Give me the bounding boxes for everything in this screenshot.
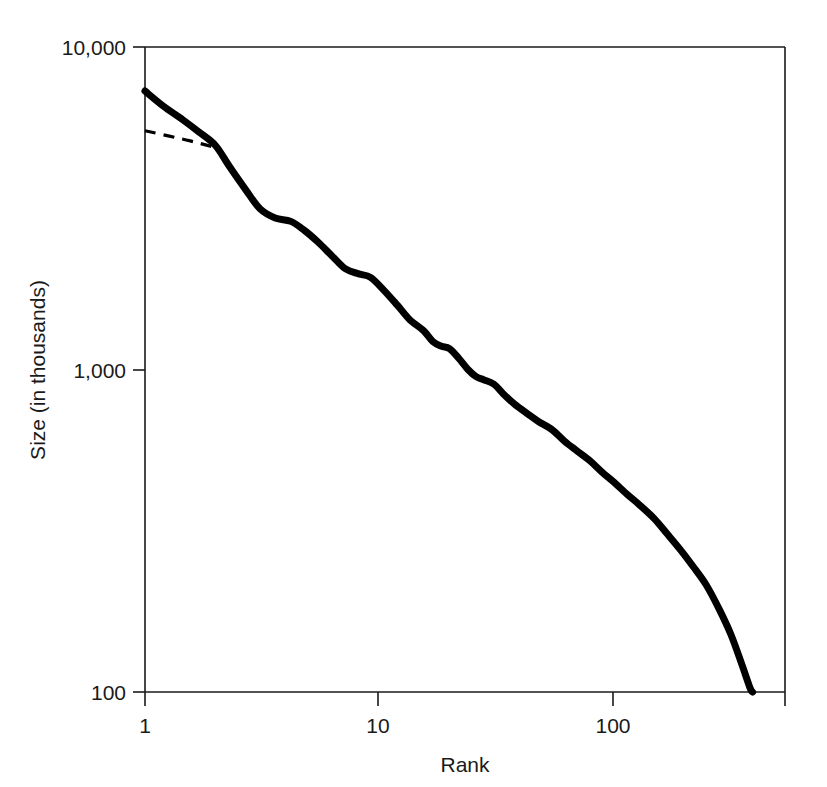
y-axis-title: Size (in thousands)	[26, 280, 49, 460]
rank-size-log-log-chart: 10,000 1,000 100 1 10 100 Rank Size (in …	[0, 0, 827, 787]
y-tick-label-1000: 1,000	[73, 359, 126, 382]
chart-figure: 10,000 1,000 100 1 10 100 Rank Size (in …	[0, 0, 827, 787]
x-tick-label-1: 1	[139, 714, 151, 737]
x-tick-label-10: 10	[366, 714, 389, 737]
series-rank-size-distribution	[145, 91, 753, 692]
y-tick-label-100: 100	[91, 681, 126, 704]
x-tick-marks	[145, 692, 785, 706]
x-axis-title: Rank	[440, 753, 490, 776]
y-tick-marks	[133, 47, 145, 692]
x-tick-label-100: 100	[595, 714, 630, 737]
y-tick-label-10000: 10,000	[62, 36, 126, 59]
